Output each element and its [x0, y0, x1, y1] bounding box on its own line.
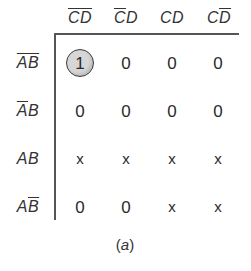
- row-header-a-b: AB: [17, 151, 39, 167]
- figure-caption: (a): [116, 237, 134, 252]
- cell-r3-c3: x: [214, 199, 222, 214]
- column-header-cbar-dbar: CD: [68, 10, 92, 26]
- row-header-abar-bbar: AB: [17, 55, 39, 71]
- column-header-cbar-d: CD: [114, 10, 138, 26]
- cell-r0-c1: 0: [121, 55, 130, 72]
- var-b: B: [28, 150, 39, 167]
- row-label-divider-line: [54, 33, 56, 220]
- var-b-bar: B: [28, 198, 39, 215]
- cell-r2-c0: x: [76, 151, 84, 166]
- var-c: C: [160, 9, 172, 26]
- var-c-bar: C: [68, 9, 80, 26]
- var-a-bar: A: [17, 102, 28, 119]
- var-d-bar: D: [80, 9, 92, 26]
- column-header-c-d: CD: [160, 10, 184, 26]
- cell-r2-c3: x: [214, 151, 222, 166]
- var-c-bar: C: [114, 9, 126, 26]
- cell-r2-c1: x: [122, 151, 130, 166]
- cell-r0-c3: 0: [213, 55, 222, 72]
- cell-r1-c3: 0: [213, 103, 222, 120]
- cell-r1-c0: 0: [75, 103, 84, 120]
- cell-r0-c2: 0: [167, 55, 176, 72]
- row-header-a-bbar: AB: [17, 199, 39, 215]
- var-d: D: [172, 9, 184, 26]
- cell-r1-c2: 0: [167, 103, 176, 120]
- var-d-bar: D: [219, 9, 231, 26]
- var-a-bar: A: [17, 54, 28, 71]
- row-header-abar-b: AB: [17, 103, 39, 119]
- karnaugh-map: CD CD CD CD AB AB AB AB 1 0 0 0 0 0 0 0 …: [0, 0, 251, 271]
- caption-close-paren: ): [129, 236, 134, 253]
- var-b: B: [28, 102, 39, 119]
- cell-r3-c2: x: [168, 199, 176, 214]
- cell-r2-c2: x: [168, 151, 176, 166]
- var-c: C: [207, 9, 219, 26]
- cell-r1-c1: 0: [121, 103, 130, 120]
- column-header-c-dbar: CD: [207, 10, 231, 26]
- var-d: D: [126, 9, 138, 26]
- cell-r0-c0-circled: 1: [66, 49, 94, 77]
- cell-r3-c1: 0: [121, 199, 130, 216]
- var-a: A: [17, 150, 28, 167]
- var-a: A: [17, 198, 28, 215]
- header-divider-line: [55, 33, 239, 35]
- var-b-bar: B: [28, 54, 39, 71]
- cell-r3-c0: 0: [75, 199, 84, 216]
